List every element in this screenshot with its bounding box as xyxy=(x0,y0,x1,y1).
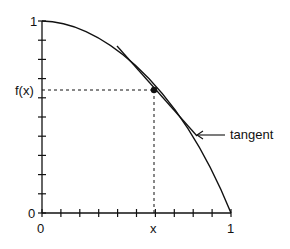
y-top-label: 1 xyxy=(30,14,37,29)
fx-label: f(x) xyxy=(15,83,34,98)
y-bottom-label: 0 xyxy=(28,206,35,221)
tangent-diagram: 1 0 f(x) 0 x 1 tangent xyxy=(0,0,290,249)
tangent-point xyxy=(151,87,157,93)
x-left-label: 0 xyxy=(37,221,44,236)
x-right-label: 1 xyxy=(227,221,234,236)
x-marked-label: x xyxy=(150,221,157,236)
left-arrow-icon xyxy=(197,131,225,139)
tangent-label: tangent xyxy=(230,127,274,142)
curve xyxy=(42,21,231,213)
